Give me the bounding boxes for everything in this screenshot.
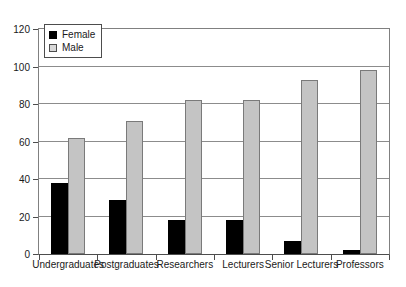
y-tick-label: 100 (0, 61, 30, 72)
bar-female-senior-lecturers (284, 241, 301, 254)
bar-group (214, 29, 272, 254)
chart-legend: Female Male (44, 24, 102, 58)
bar-male-researchers (185, 100, 202, 254)
x-category-label-researchers: Researchers (156, 259, 213, 270)
bar-group (39, 29, 97, 254)
bar-group (97, 29, 155, 254)
legend-swatch-female-icon (49, 31, 57, 39)
y-tick-label: 60 (0, 136, 30, 147)
bar-female-lecturers (226, 220, 243, 254)
legend-swatch-male-icon (49, 44, 57, 52)
x-category-label-senior-lecturers: Senior Lecturers (265, 259, 338, 270)
bar-chart-figure: 020406080100120 UndergraduatesPostgradua… (0, 0, 406, 287)
bar-female-postgraduates (109, 200, 126, 254)
legend-label-female: Female (62, 29, 95, 40)
bar-female-undergraduates (51, 183, 68, 254)
y-tick-label: 0 (0, 249, 30, 260)
bar-male-undergraduates (68, 138, 85, 254)
y-tick-label: 20 (0, 211, 30, 222)
bar-male-senior-lecturers (301, 80, 318, 254)
x-category-label-undergraduates: Undergraduates (32, 259, 104, 270)
bar-male-professors (360, 70, 377, 254)
x-category-label-professors: Professors (336, 259, 384, 270)
x-tick-mark (389, 255, 390, 260)
x-category-label-lecturers: Lecturers (222, 259, 264, 270)
bar-male-lecturers (243, 100, 260, 254)
x-category-label-postgraduates: Postgraduates (94, 259, 159, 270)
bar-series-container (39, 29, 389, 254)
bar-group (331, 29, 389, 254)
bar-male-postgraduates (126, 121, 143, 254)
y-tick-label: 80 (0, 99, 30, 110)
bar-group (272, 29, 330, 254)
legend-item-male: Male (49, 41, 95, 54)
bar-group (156, 29, 214, 254)
x-tick-mark (214, 255, 215, 260)
bar-female-researchers (168, 220, 185, 254)
y-tick-label: 40 (0, 174, 30, 185)
legend-label-male: Male (62, 42, 84, 53)
bar-female-professors (343, 250, 360, 254)
y-tick-label: 120 (0, 24, 30, 35)
legend-item-female: Female (49, 28, 95, 41)
